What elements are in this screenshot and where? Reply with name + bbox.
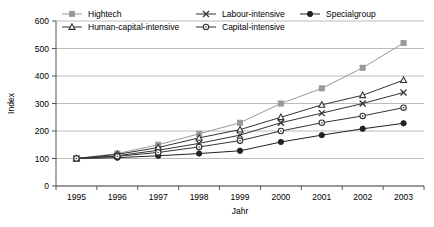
marker-triangle bbox=[401, 77, 407, 83]
x-axis-title: Jahr bbox=[232, 206, 249, 216]
marker-circle-center bbox=[239, 140, 241, 142]
y-axis-tick-label: 400 bbox=[35, 71, 49, 81]
marker-circle-center bbox=[157, 152, 159, 154]
legend-label: Labour-intensive bbox=[222, 9, 285, 19]
y-axis: 0100200300400500600Index bbox=[6, 16, 56, 191]
gridlines bbox=[56, 21, 424, 186]
y-axis-tick-label: 200 bbox=[35, 126, 49, 136]
marker-circle-center bbox=[321, 122, 323, 124]
marker-triangle bbox=[237, 126, 243, 132]
legend-label: Human-capital-intensive bbox=[88, 22, 179, 32]
marker-triangle bbox=[360, 92, 366, 98]
y-axis-tick-label: 600 bbox=[35, 16, 49, 26]
marker-triangle bbox=[319, 102, 325, 108]
x-axis: 199519961997199819992000200120022003Jahr bbox=[56, 186, 424, 216]
legend-item[interactable]: Capital-intensive bbox=[196, 22, 285, 32]
x-axis-tick-label: 2003 bbox=[394, 192, 413, 202]
marker-circle-center bbox=[117, 156, 119, 158]
marker-circle-center bbox=[362, 115, 364, 117]
y-axis-tick-label: 500 bbox=[35, 44, 49, 54]
legend-label: Capital-intensive bbox=[222, 22, 285, 32]
marker-square bbox=[278, 101, 283, 106]
marker-disc bbox=[360, 126, 365, 131]
series-line bbox=[76, 80, 403, 158]
marker-square bbox=[401, 40, 406, 45]
y-axis-title: Index bbox=[6, 92, 16, 114]
y-axis-tick-label: 100 bbox=[35, 154, 49, 164]
marker-square bbox=[69, 11, 74, 16]
x-axis-tick-label: 2002 bbox=[353, 192, 372, 202]
marker-disc bbox=[307, 11, 312, 16]
x-axis-tick-label: 1997 bbox=[149, 192, 168, 202]
legend: HightechLabour-intensiveSpecialgroupHuma… bbox=[62, 9, 376, 32]
marker-triangle bbox=[69, 24, 75, 30]
y-axis-tick-label: 0 bbox=[44, 181, 49, 191]
marker-circle-center bbox=[205, 26, 207, 28]
marker-square bbox=[319, 86, 324, 91]
marker-circle-center bbox=[76, 158, 78, 160]
marker-disc bbox=[196, 151, 201, 156]
line-chart: 0100200300400500600Index1995199619971998… bbox=[0, 0, 434, 227]
legend-item[interactable]: Human-capital-intensive bbox=[62, 22, 179, 32]
marker-disc bbox=[319, 132, 324, 137]
x-axis-tick-label: 1995 bbox=[67, 192, 86, 202]
marker-disc bbox=[278, 139, 283, 144]
x-axis-tick-label: 1996 bbox=[108, 192, 127, 202]
x-axis-tick-label: 2001 bbox=[312, 192, 331, 202]
marker-disc bbox=[237, 148, 242, 153]
chart-canvas: 0100200300400500600Index1995199619971998… bbox=[0, 0, 434, 227]
marker-circle-center bbox=[403, 107, 405, 109]
marker-triangle bbox=[278, 114, 284, 120]
marker-circle-center bbox=[198, 146, 200, 148]
legend-item[interactable]: Hightech bbox=[62, 9, 122, 19]
marker-square bbox=[237, 120, 242, 125]
marker-square bbox=[360, 65, 365, 70]
marker-circle-center bbox=[280, 130, 282, 132]
legend-item[interactable]: Labour-intensive bbox=[196, 9, 285, 19]
legend-item[interactable]: Specialgroup bbox=[300, 9, 376, 19]
y-axis-tick-label: 300 bbox=[35, 99, 49, 109]
x-axis-tick-label: 1998 bbox=[190, 192, 209, 202]
marker-disc bbox=[401, 121, 406, 126]
legend-label: Specialgroup bbox=[326, 9, 376, 19]
x-axis-tick-label: 2000 bbox=[271, 192, 290, 202]
legend-label: Hightech bbox=[88, 9, 122, 19]
x-axis-tick-label: 1999 bbox=[231, 192, 250, 202]
